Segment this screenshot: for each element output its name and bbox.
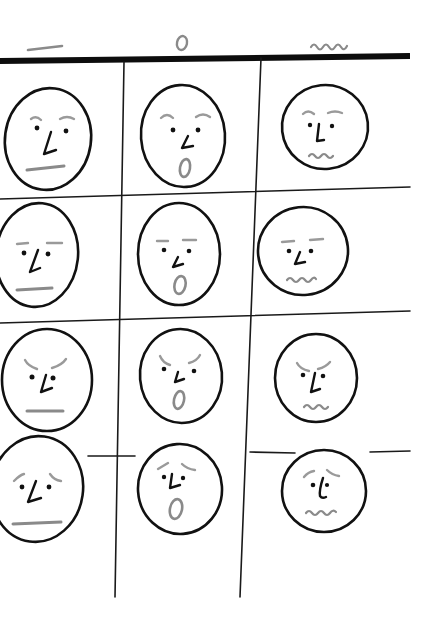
face-raised-wavy (278, 81, 372, 174)
row-divider-3c (370, 451, 410, 452)
header-wavy-mouth-icon (311, 45, 347, 50)
face-raised-flat (0, 83, 98, 196)
column-headers (28, 35, 347, 51)
column-divider-1 (115, 62, 124, 597)
grid-lines (0, 56, 410, 597)
face-worried-wavy (282, 450, 366, 532)
row-divider-3b (250, 452, 295, 453)
row-divider-2 (0, 311, 410, 323)
face-flat-wavy (254, 203, 353, 300)
face-worried-open (135, 441, 225, 537)
face-worried-flat (0, 430, 90, 548)
face-raised-open (138, 82, 229, 190)
header-flat-mouth-icon (28, 46, 62, 50)
column-divider-2 (240, 58, 261, 597)
header-divider-thick (0, 56, 410, 61)
face-angry-flat (2, 329, 92, 431)
face-flat-flat (0, 199, 83, 311)
row-divider-1 (0, 187, 410, 199)
face-flat-open (138, 203, 220, 305)
header-open-mouth-icon (176, 35, 189, 51)
expression-grid-diagram (0, 0, 435, 630)
face-angry-wavy (275, 334, 357, 422)
face-angry-open (136, 326, 226, 427)
